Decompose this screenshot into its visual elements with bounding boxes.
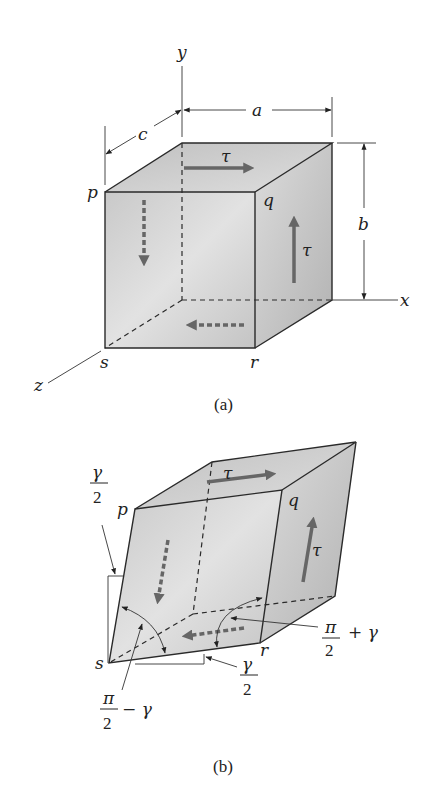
block-front-face [109,490,282,663]
b-tau-top-label: τ [223,463,233,483]
svg-text:π: π [102,688,115,708]
vertex-r-label: r [250,352,259,372]
vertex-p-label: p [87,182,98,202]
z-axis-label: z [33,375,44,395]
angle-label-gamma-half-left: γ 2 [90,462,108,507]
tau-top-label: τ [221,146,231,166]
b-vertex-p-label: p [117,499,128,519]
svg-text:2: 2 [325,641,334,660]
svg-text:− γ: − γ [122,699,153,719]
b-vertex-s-label: s [95,653,104,673]
figure-a-cube: y x z a b c p q s r τ τ (a) [33,42,410,414]
figure-a-caption: (a) [214,395,233,414]
svg-text:γ: γ [242,654,253,674]
b-vertex-q-label: q [288,490,299,510]
angle-label-gamma-half-bottom: γ 2 [240,654,258,699]
vertex-s-label: s [100,352,109,372]
svg-text:+ γ: + γ [348,622,379,642]
figure-b-deformed-block: p q s r τ τ γ 2 γ 2 π 2 − γ π 2 + γ [90,442,379,776]
y-axis-label: y [176,42,187,62]
x-axis-label: x [400,290,410,310]
svg-text:2: 2 [103,714,112,733]
dimension-a-label: a [252,100,262,120]
figure-b-caption: (b) [213,757,233,776]
shear-stress-diagram: y x z a b c p q s r τ τ (a) [0,0,432,810]
svg-text:2: 2 [243,680,252,699]
b-tau-right-label: τ [312,540,322,560]
svg-text:γ: γ [92,462,103,482]
dimension-c-label: c [138,124,148,144]
vertex-q-label: q [263,190,274,210]
b-vertex-r-label: r [260,640,269,660]
svg-text:π: π [324,617,337,637]
angle-label-pi-half-plus-gamma: π 2 + γ [322,617,379,660]
dimension-b-label: b [358,214,369,234]
angle-label-pi-half-minus-gamma: π 2 − γ [100,688,153,733]
z-axis [48,351,101,383]
tau-right-label: τ [302,240,312,260]
svg-text:2: 2 [93,488,102,507]
